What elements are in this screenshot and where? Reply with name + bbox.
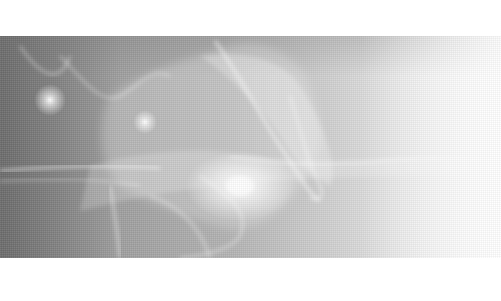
page (0, 0, 501, 301)
smoke-photo (0, 36, 501, 258)
photo-halftone-texture (0, 36, 501, 258)
